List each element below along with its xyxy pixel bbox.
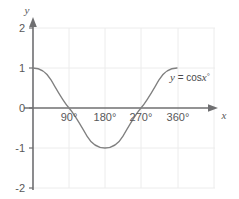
- curve-equation-text: y = cosx°: [169, 71, 210, 83]
- x-tick-label-90: 90°: [61, 111, 78, 123]
- plot-area: 2 1 0 -1 -2 90° 180° 270° 360° y x y = c…: [0, 0, 239, 199]
- x-axis-label: x: [221, 109, 227, 121]
- y-tick-label-neg1: -1: [15, 142, 25, 154]
- x-tick-label-180: 180°: [94, 111, 117, 123]
- y-axis-label: y: [24, 4, 30, 16]
- y-tick-label-neg2: -2: [15, 182, 25, 194]
- axis-names: y x: [24, 4, 227, 121]
- x-tick-label-270: 270°: [130, 111, 153, 123]
- y-tick-label-0: 0: [19, 102, 25, 114]
- y-tick-label-1: 1: [19, 62, 25, 74]
- equation-equals-cos: = cos: [175, 72, 202, 83]
- axes: [24, 17, 218, 190]
- x-axis-tick-labels: 90° 180° 270° 360°: [61, 111, 190, 123]
- y-axis-tick-labels: 2 1 0 -1 -2: [15, 22, 25, 194]
- x-tick-label-360: 360°: [167, 111, 190, 123]
- y-axis-arrow-icon: [29, 17, 37, 27]
- x-axis-arrow-icon: [208, 104, 218, 112]
- curve-equation-label: y = cosx°: [169, 71, 210, 83]
- y-tick-label-2: 2: [19, 22, 25, 34]
- cosine-graph-figure: 2 1 0 -1 -2 90° 180° 270° 360° y x y = c…: [0, 0, 239, 199]
- equation-degree-symbol: °: [207, 72, 210, 81]
